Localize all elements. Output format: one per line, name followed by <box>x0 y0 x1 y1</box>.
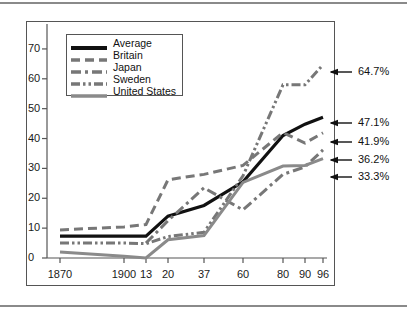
x-axis-tick-label: 37 <box>184 268 224 280</box>
legend-label: Average <box>113 38 152 49</box>
legend-label: United States <box>113 86 176 97</box>
y-axis-tick-label: 60 <box>28 72 40 84</box>
y-axis-tick-label: 30 <box>28 161 40 173</box>
x-axis-tick-label: 1870 <box>40 268 80 280</box>
chart-legend: AverageBritainJapanSwedenUnited States <box>66 34 183 96</box>
legend-label: Japan <box>113 62 142 73</box>
annotation-value-label: 36.2% <box>358 153 389 165</box>
legend-swatch-icon <box>71 63 107 73</box>
y-axis-tick-label: 0 <box>28 251 34 263</box>
y-axis-tick-label: 70 <box>28 42 40 54</box>
x-axis-tick-label: 60 <box>223 268 263 280</box>
x-axis-tick-label: 20 <box>148 268 188 280</box>
y-axis-tick-label: 20 <box>28 191 40 203</box>
legend-swatch-icon <box>71 51 107 61</box>
legend-swatch-icon <box>71 39 107 49</box>
figure-container: 010203040506070 1870190013203760809096 6… <box>0 0 407 316</box>
y-axis-tick-label: 40 <box>28 132 40 144</box>
legend-label: Britain <box>113 50 143 61</box>
series-line-britain <box>60 133 323 230</box>
annotation-arrows-group <box>331 72 352 177</box>
legend-item-britain[interactable]: Britain <box>71 50 182 61</box>
annotation-value-label: 47.1% <box>358 116 389 128</box>
legend-item-japan[interactable]: Japan <box>71 62 182 73</box>
legend-swatch-icon <box>71 87 107 97</box>
legend-item-sweden[interactable]: Sweden <box>71 74 182 85</box>
legend-swatch-icon <box>71 75 107 85</box>
annotation-value-label: 64.7% <box>358 65 389 77</box>
legend-item-average[interactable]: Average <box>71 38 182 49</box>
annotation-value-label: 33.3% <box>358 170 389 182</box>
x-axis-tick-label: 96 <box>303 268 343 280</box>
y-axis-tick-label: 10 <box>28 221 40 233</box>
y-axis-tick-label: 50 <box>28 102 40 114</box>
legend-label: Sweden <box>113 74 151 85</box>
annotation-value-label: 41.9% <box>358 135 389 147</box>
legend-item-united-states[interactable]: United States <box>71 86 182 97</box>
